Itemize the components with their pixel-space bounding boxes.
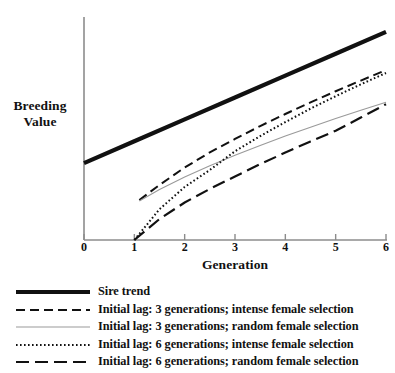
x-tick-label-5: 5 (326, 240, 346, 255)
breeding-value-chart-figure: Breeding Value Generation 0123456 Sire t… (0, 0, 395, 373)
chart-legend: Sire trendInitial lag: 3 generations; in… (0, 283, 395, 371)
x-tick-label-0: 0 (74, 240, 94, 255)
legend-line-swatch-solid-thin (16, 318, 92, 336)
legend-line-swatch-dotted (16, 336, 92, 354)
legend-line-swatch-long-dash (16, 353, 92, 371)
legend-item-label: Initial lag: 3 generations; random femal… (92, 319, 358, 334)
x-tick-label-6: 6 (376, 240, 395, 255)
legend-line-swatch-solid-thick (16, 283, 92, 301)
x-tick-label-4: 4 (275, 240, 295, 255)
legend-item: Initial lag: 3 generations; intense fema… (0, 301, 395, 319)
legend-item-label: Initial lag: 6 generations; intense fema… (92, 337, 354, 352)
x-tick-label-2: 2 (175, 240, 195, 255)
legend-item: Initial lag: 3 generations; random femal… (0, 318, 395, 336)
x-tick-label-3: 3 (225, 240, 245, 255)
legend-item-label: Initial lag: 3 generations; intense fema… (92, 302, 354, 317)
y-axis-label: Breeding Value (2, 98, 78, 130)
series-line-solid-thin (139, 102, 386, 201)
legend-item: Sire trend (0, 283, 395, 301)
y-axis-label-line-1: Breeding (2, 98, 78, 114)
legend-line-swatch-dashed (16, 301, 92, 319)
legend-item: Initial lag: 6 generations; intense fema… (0, 336, 395, 354)
legend-item-label: Sire trend (92, 284, 150, 299)
x-tick-label-1: 1 (124, 240, 144, 255)
legend-item: Initial lag: 6 generations; random femal… (0, 353, 395, 371)
data-series-group (84, 32, 386, 240)
legend-item-label: Initial lag: 6 generations; random femal… (92, 354, 358, 369)
plot-area (0, 0, 395, 260)
x-axis-label: Generation (84, 257, 386, 273)
series-line-dotted (134, 73, 386, 240)
y-axis-label-line-2: Value (2, 114, 78, 130)
series-line-solid-thick (84, 32, 386, 163)
